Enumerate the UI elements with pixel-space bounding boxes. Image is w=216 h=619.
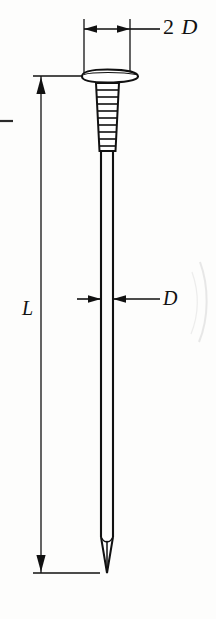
arrowhead-up-icon — [36, 77, 45, 94]
figure-canvas: 2 D L D — [0, 0, 216, 619]
scan-artifact-group — [191, 262, 207, 342]
shank-diameter-dimension — [77, 295, 160, 303]
arrowhead-right-icon — [113, 295, 126, 303]
nail-shank — [101, 150, 113, 537]
arrowhead-left-icon — [84, 25, 97, 33]
nail-head — [82, 70, 138, 83]
length-label: L — [22, 298, 33, 318]
nail-knurled-shank — [96, 83, 119, 151]
length-dimension — [33, 76, 100, 573]
head-diameter-dimension — [84, 19, 160, 74]
knurl-body — [96, 83, 119, 151]
head-diameter-multiplier: 2 — [163, 14, 175, 39]
nail-point — [101, 537, 113, 573]
head-diameter-label: 2 D — [163, 16, 198, 38]
arrowhead-left-icon — [88, 295, 101, 303]
head-disc — [82, 70, 138, 83]
nail-outline — [82, 70, 138, 574]
shank-diameter-label: D — [163, 288, 177, 308]
head-diameter-symbol: D — [182, 14, 199, 39]
arrowhead-down-icon — [36, 555, 45, 572]
arrowhead-right-icon — [117, 25, 130, 33]
